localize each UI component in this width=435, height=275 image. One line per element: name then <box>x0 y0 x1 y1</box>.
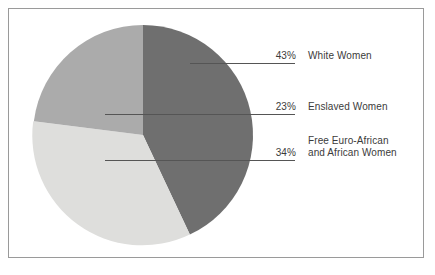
callout-enslaved-women[interactable]: 23% Enslaved Women <box>256 101 388 113</box>
callout-label-white-women: White Women <box>308 50 372 62</box>
pie-chart-figure: 43% White Women 23% Enslaved Women 34% F… <box>0 0 435 275</box>
callout-value-enslaved-women: 23% <box>256 101 296 113</box>
pie-slice-enslaved-women[interactable] <box>34 25 143 135</box>
callout-label-line2: and African Women <box>308 147 397 159</box>
callout-label-enslaved-women: Enslaved Women <box>308 101 388 113</box>
callout-white-women[interactable]: 43% White Women <box>256 50 372 62</box>
callout-label-free-euro-african-women: Free Euro-African and African Women <box>308 135 397 159</box>
callout-label-line1: Free Euro-African <box>308 135 389 146</box>
callout-value-white-women: 43% <box>256 50 296 62</box>
chart-area: 43% White Women 23% Enslaved Women 34% F… <box>0 0 435 275</box>
callout-free-euro-african-women[interactable]: 34% Free Euro-African and African Women <box>256 135 397 159</box>
callout-value-free-euro-african-women: 34% <box>256 147 296 159</box>
